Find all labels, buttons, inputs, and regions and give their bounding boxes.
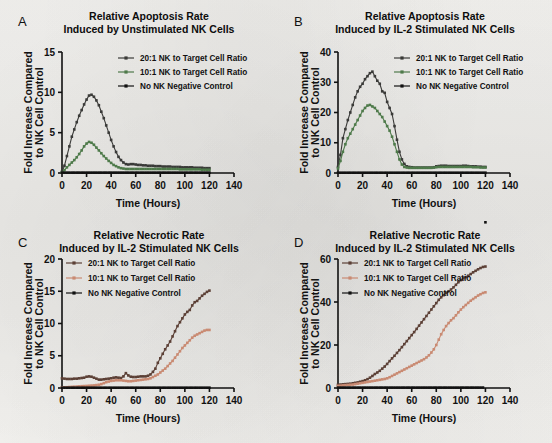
svg-text:10:1 NK to Target Cell Ratio: 10:1 NK to Target Cell Ratio bbox=[140, 68, 247, 77]
svg-text:80: 80 bbox=[431, 180, 443, 191]
panel-a-plot: 051015020406080100120140Time (Hours)Fold… bbox=[0, 0, 276, 221]
svg-text:Time (Hours): Time (Hours) bbox=[392, 412, 457, 424]
svg-text:120: 120 bbox=[477, 180, 494, 191]
svg-text:10: 10 bbox=[44, 87, 56, 98]
svg-text:to NK Cell Control: to NK Cell Control bbox=[309, 278, 321, 368]
figure-panel-grid: A Relative Apoptosis Rate Induced by Uns… bbox=[0, 0, 552, 443]
svg-text:Time (Hours): Time (Hours) bbox=[116, 412, 181, 424]
svg-text:40: 40 bbox=[320, 297, 332, 308]
svg-text:0: 0 bbox=[49, 168, 55, 179]
svg-text:5: 5 bbox=[49, 127, 55, 138]
svg-text:to NK Cell Control: to NK Cell Control bbox=[309, 67, 321, 157]
svg-text:10: 10 bbox=[320, 137, 332, 148]
svg-text:40: 40 bbox=[382, 180, 394, 191]
svg-text:60: 60 bbox=[406, 395, 418, 406]
svg-text:80: 80 bbox=[155, 180, 167, 191]
svg-text:Time (Hours): Time (Hours) bbox=[116, 197, 181, 209]
svg-text:20:1 NK to Target Cell Ratio: 20:1 NK to Target Cell Ratio bbox=[88, 259, 195, 268]
svg-text:60: 60 bbox=[130, 395, 142, 406]
svg-text:40: 40 bbox=[106, 395, 118, 406]
svg-text:40: 40 bbox=[106, 180, 118, 191]
svg-text:Time (Hours): Time (Hours) bbox=[392, 197, 457, 209]
svg-text:No NK Negative Control: No NK Negative Control bbox=[140, 82, 233, 91]
svg-text:0: 0 bbox=[325, 168, 331, 179]
svg-text:120: 120 bbox=[477, 395, 494, 406]
svg-text:No NK Negative Control: No NK Negative Control bbox=[88, 289, 181, 298]
svg-text:20: 20 bbox=[320, 107, 332, 118]
svg-text:30: 30 bbox=[320, 77, 332, 88]
svg-text:120: 120 bbox=[201, 180, 218, 191]
svg-text:20:1 NK to Target Cell Ratio: 20:1 NK to Target Cell Ratio bbox=[364, 259, 471, 268]
svg-text:10: 10 bbox=[44, 318, 56, 329]
svg-text:0: 0 bbox=[325, 383, 331, 394]
svg-text:40: 40 bbox=[382, 395, 394, 406]
svg-text:0: 0 bbox=[59, 395, 65, 406]
panel-d-plot: 0204060020406080100120140Time (Hours)Fol… bbox=[276, 221, 552, 443]
panel-c: C Relative Necrotic Rate Induced by IL-2… bbox=[0, 221, 276, 443]
svg-text:40: 40 bbox=[320, 47, 332, 58]
svg-text:0: 0 bbox=[59, 180, 65, 191]
svg-text:100: 100 bbox=[177, 180, 194, 191]
svg-text:80: 80 bbox=[431, 395, 443, 406]
svg-text:140: 140 bbox=[502, 180, 519, 191]
svg-text:80: 80 bbox=[155, 395, 167, 406]
panel-d: D Relative Necrotic Rate Induced by IL-2… bbox=[276, 221, 552, 443]
svg-text:5: 5 bbox=[49, 350, 55, 361]
svg-text:15: 15 bbox=[44, 47, 56, 58]
svg-text:10:1 NK to Target Cell Ratio: 10:1 NK to Target Cell Ratio bbox=[416, 68, 523, 77]
panel-c-plot: 05101520020406080100120140Time (Hours)Fo… bbox=[0, 221, 276, 443]
svg-text:No NK Negative Control: No NK Negative Control bbox=[364, 289, 457, 298]
svg-text:100: 100 bbox=[453, 395, 470, 406]
svg-text:10:1 NK to Target Cell Ratio: 10:1 NK to Target Cell Ratio bbox=[88, 274, 195, 283]
svg-text:No NK Negative Control: No NK Negative Control bbox=[416, 82, 509, 91]
svg-text:20: 20 bbox=[357, 180, 369, 191]
svg-text:0: 0 bbox=[49, 383, 55, 394]
svg-text:20: 20 bbox=[320, 340, 332, 351]
svg-text:120: 120 bbox=[201, 395, 218, 406]
svg-text:60: 60 bbox=[130, 180, 142, 191]
svg-text:20:1 NK to Target Cell Ratio: 20:1 NK to Target Cell Ratio bbox=[140, 54, 247, 63]
svg-text:140: 140 bbox=[226, 180, 243, 191]
svg-text:20: 20 bbox=[81, 180, 93, 191]
svg-text:20: 20 bbox=[44, 254, 56, 265]
svg-text:to NK Cell Control: to NK Cell Control bbox=[33, 67, 45, 157]
svg-text:20: 20 bbox=[81, 395, 93, 406]
svg-text:100: 100 bbox=[177, 395, 194, 406]
svg-text:0: 0 bbox=[335, 180, 341, 191]
svg-text:20:1 NK to Target Cell Ratio: 20:1 NK to Target Cell Ratio bbox=[416, 54, 523, 63]
svg-text:to NK Cell Control: to NK Cell Control bbox=[33, 278, 45, 368]
panel-a: A Relative Apoptosis Rate Induced by Uns… bbox=[0, 0, 276, 221]
svg-text:15: 15 bbox=[44, 286, 56, 297]
panel-b: B Relative Apoptosis Rate Induced by IL-… bbox=[276, 0, 552, 221]
svg-text:140: 140 bbox=[502, 395, 519, 406]
svg-text:60: 60 bbox=[406, 180, 418, 191]
svg-text:0: 0 bbox=[335, 395, 341, 406]
panel-b-plot: 010203040020406080100120140Time (Hours)F… bbox=[276, 0, 552, 221]
svg-text:10:1 NK to Target Cell Ratio: 10:1 NK to Target Cell Ratio bbox=[364, 274, 471, 283]
svg-text:140: 140 bbox=[226, 395, 243, 406]
svg-text:60: 60 bbox=[320, 254, 332, 265]
svg-text:100: 100 bbox=[453, 180, 470, 191]
svg-text:20: 20 bbox=[357, 395, 369, 406]
